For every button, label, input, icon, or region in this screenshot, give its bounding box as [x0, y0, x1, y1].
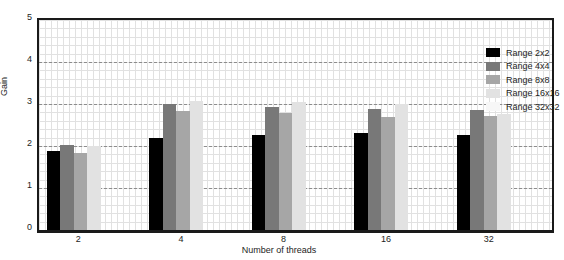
bar-range-2x2-16 — [354, 133, 368, 230]
bar-range-8x8-2 — [74, 153, 88, 230]
x-axis-label: Number of threads — [0, 245, 558, 255]
gridline-y-4 — [39, 62, 552, 63]
y-tick-label-0: 0 — [8, 222, 32, 232]
legend: Range 2x2Range 4x4Range 8x8Range 16x16Ra… — [486, 44, 564, 116]
plot-area: Range 2x2Range 4x4Range 8x8Range 16x16Ra… — [37, 18, 554, 233]
bar-range-4x4-8 — [265, 107, 279, 230]
legend-label: Range 16x16 — [506, 88, 560, 98]
bar-range-8x8-16 — [381, 117, 395, 230]
bar-range-16x16-8 — [292, 102, 306, 230]
bar-range-2x2-32 — [457, 135, 471, 230]
x-tick-label-8: 8 — [264, 234, 304, 244]
legend-item-range-16x16[interactable]: Range 16x16 — [486, 87, 564, 101]
x-tick-label-16: 16 — [366, 234, 406, 244]
y-tick-label-4: 4 — [8, 54, 32, 64]
bar-range-2x2-8 — [252, 135, 266, 230]
legend-swatch-icon — [486, 62, 500, 71]
bar-range-2x2-2 — [47, 151, 61, 230]
y-axis-label: Gain — [0, 77, 9, 96]
legend-swatch-icon — [486, 89, 500, 98]
bar-range-4x4-2 — [60, 145, 74, 230]
legend-swatch-icon — [486, 75, 500, 84]
bar-range-8x8-4 — [176, 111, 190, 230]
legend-swatch-icon — [486, 102, 500, 111]
bar-range-4x4-16 — [368, 109, 382, 230]
legend-item-range-4x4[interactable]: Range 4x4 — [486, 60, 564, 74]
bar-range-16x16-2 — [87, 146, 101, 230]
x-tick-label-32: 32 — [469, 234, 509, 244]
bar-range-2x2-4 — [149, 138, 163, 230]
y-tick-label-2: 2 — [8, 138, 32, 148]
bar-range-16x16-4 — [190, 101, 204, 230]
bar-range-16x16-32 — [497, 114, 511, 230]
bar-range-16x16-16 — [395, 104, 409, 230]
y-tick-label-5: 5 — [8, 12, 32, 22]
bar-range-4x4-32 — [470, 110, 484, 230]
x-tick-label-2: 2 — [58, 234, 98, 244]
bar-range-8x8-8 — [279, 113, 293, 230]
y-tick-label-3: 3 — [8, 96, 32, 106]
bar-range-8x8-32 — [484, 116, 498, 230]
legend-label: Range 8x8 — [506, 75, 550, 85]
legend-item-range-8x8[interactable]: Range 8x8 — [486, 73, 564, 87]
legend-item-range-2x2[interactable]: Range 2x2 — [486, 46, 564, 60]
legend-item-range-32x32[interactable]: Range 32x32 — [486, 100, 564, 114]
legend-swatch-icon — [486, 48, 500, 57]
bar-range-4x4-4 — [163, 104, 177, 230]
legend-label: Range 4x4 — [506, 61, 550, 71]
legend-label: Range 32x32 — [506, 102, 560, 112]
legend-label: Range 2x2 — [506, 48, 550, 58]
y-tick-label-1: 1 — [8, 180, 32, 190]
x-tick-label-4: 4 — [161, 234, 201, 244]
